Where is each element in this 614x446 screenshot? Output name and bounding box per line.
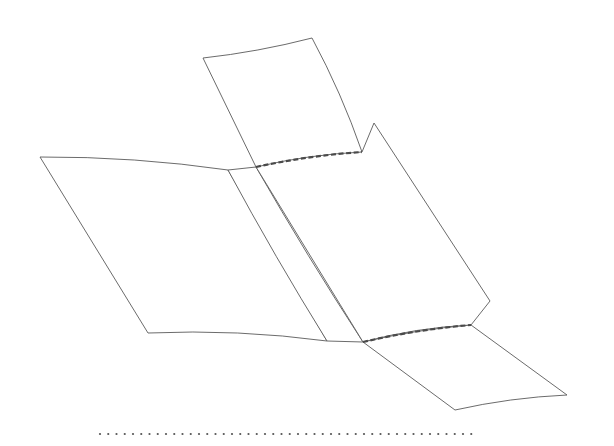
baseline-dot xyxy=(346,433,348,435)
baseline-dot xyxy=(330,433,332,435)
baseline-dot xyxy=(198,433,200,435)
baseline-dot xyxy=(404,433,406,435)
baseline-dot xyxy=(140,433,142,435)
baseline-dot xyxy=(256,433,258,435)
baseline-dot xyxy=(206,433,208,435)
baseline-dot xyxy=(181,433,183,435)
baseline-dot xyxy=(99,433,101,435)
baseline-dot xyxy=(371,433,373,435)
baseline-dot xyxy=(173,433,175,435)
baseline-dot xyxy=(338,433,340,435)
lower-flap xyxy=(363,325,567,410)
baseline-dot xyxy=(190,433,192,435)
baseline-dot xyxy=(412,433,414,435)
baseline-dot xyxy=(445,433,447,435)
upper-flap xyxy=(203,38,362,167)
baseline-dot xyxy=(379,433,381,435)
baseline-dot xyxy=(462,433,464,435)
baseline-dot xyxy=(388,433,390,435)
baseline-dot xyxy=(247,433,249,435)
baseline-dot xyxy=(124,433,126,435)
baseline-dot xyxy=(396,433,398,435)
baseline-dot xyxy=(355,433,357,435)
baseline-dot xyxy=(107,433,109,435)
baseline-dot xyxy=(148,433,150,435)
baseline-dot xyxy=(313,433,315,435)
reference-baseline xyxy=(99,433,472,435)
baseline-dot xyxy=(454,433,456,435)
baseline-dot xyxy=(363,433,365,435)
baseline-dot xyxy=(132,433,134,435)
baseline-dot xyxy=(280,433,282,435)
baseline-dot xyxy=(272,433,274,435)
baseline-dot xyxy=(115,433,117,435)
baseline-dot xyxy=(437,433,439,435)
baseline-dot xyxy=(264,433,266,435)
folded-surface-diagram xyxy=(0,0,614,446)
baseline-dot xyxy=(322,433,324,435)
baseline-dot xyxy=(165,433,167,435)
baseline-dot xyxy=(223,433,225,435)
baseline-dot xyxy=(297,433,299,435)
baseline-dot xyxy=(429,433,431,435)
baseline-dot xyxy=(214,433,216,435)
baseline-dot xyxy=(231,433,233,435)
baseline-dot xyxy=(305,433,307,435)
baseline-dot xyxy=(239,433,241,435)
baseline-dot xyxy=(289,433,291,435)
figure-root xyxy=(0,0,614,446)
baseline-dot xyxy=(421,433,423,435)
baseline-dot xyxy=(470,433,472,435)
baseline-dot xyxy=(157,433,159,435)
